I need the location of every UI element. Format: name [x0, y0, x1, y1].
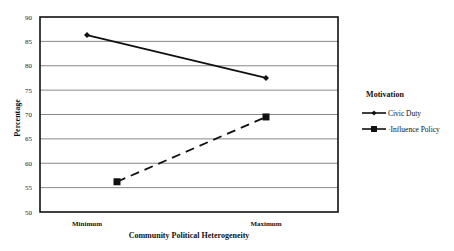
diamond-marker-icon	[372, 111, 377, 116]
legend-title: Motivation	[366, 90, 404, 99]
series-civic-duty	[84, 32, 269, 81]
legend-label: Civic Duty	[388, 109, 421, 118]
legend-item: Civic Duty	[362, 109, 421, 118]
square-marker-icon	[114, 178, 121, 185]
x-category-label: Minimum	[72, 220, 102, 228]
gridlines	[40, 41, 338, 187]
x-axis-categories: MinimumMaximum	[72, 220, 282, 228]
y-axis-ticks: 505560657075808590	[25, 14, 33, 217]
y-tick-label: 80	[25, 62, 33, 70]
y-tick-label: 85	[25, 38, 33, 46]
y-axis-title: Percentage	[13, 99, 22, 137]
legend: Motivation Civic Duty·Influence Policy	[362, 90, 440, 134]
y-tick-label: 75	[25, 87, 33, 95]
legend-label: ·Influence Policy	[388, 125, 440, 134]
x-category-label: Maximum	[250, 220, 281, 228]
data-series	[84, 32, 270, 185]
y-tick-label: 65	[25, 135, 33, 143]
y-tick-label: 55	[25, 184, 33, 192]
y-tick-label: 50	[25, 209, 33, 217]
square-marker-icon	[371, 126, 377, 132]
y-tick-label: 90	[25, 14, 33, 22]
series-influence-policy	[114, 113, 270, 185]
legend-item: ·Influence Policy	[362, 125, 440, 134]
series-line	[117, 117, 266, 182]
diamond-marker-icon	[84, 32, 90, 38]
y-tick-label: 70	[25, 111, 33, 119]
diamond-marker-icon	[263, 75, 269, 81]
x-axis-title: Community Political Heterogeneity	[129, 231, 250, 240]
square-marker-icon	[263, 113, 270, 120]
y-tick-label: 60	[25, 160, 33, 168]
line-chart: 505560657075808590 MinimumMaximum Percen…	[0, 0, 454, 251]
